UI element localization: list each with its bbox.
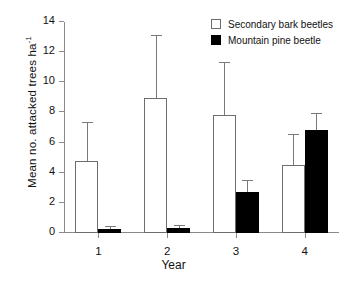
error-bar-cap: [105, 226, 116, 227]
error-bar-stem: [110, 227, 111, 229]
error-bar-cap: [151, 35, 162, 36]
bar: [167, 228, 190, 233]
error-bar-cap: [82, 122, 93, 123]
x-tick-4: [305, 233, 306, 238]
y-tick-label-8: 8: [49, 104, 55, 116]
x-axis-label: Year: [0, 258, 347, 272]
x-tick-label-4: 4: [290, 245, 320, 257]
bar: [98, 229, 121, 233]
x-tick-label-3: 3: [221, 245, 251, 257]
bar: [282, 165, 305, 233]
error-bar-stem: [179, 226, 180, 228]
bar: [213, 115, 236, 233]
x-tick-label-1: 1: [83, 245, 113, 257]
y-tick-label-12: 12: [43, 44, 55, 56]
y-tick-14: 14: [59, 21, 64, 22]
error-bar-cap: [288, 134, 299, 135]
plot-area: 02468101214 1234: [64, 22, 339, 233]
error-bar-stem: [87, 123, 88, 161]
y-tick-label-6: 6: [49, 135, 55, 147]
error-bar-stem: [156, 36, 157, 99]
error-bar-stem: [247, 181, 248, 192]
y-axis-label-exponent: -1: [24, 36, 33, 43]
y-tick-label-4: 4: [49, 165, 55, 177]
y-tick-label-0: 0: [49, 225, 55, 237]
x-tick-1: [98, 233, 99, 238]
bar: [236, 192, 259, 233]
y-axis-line: [64, 22, 65, 233]
y-axis-label-text: Mean no. attacked trees ha: [26, 43, 38, 188]
bar: [75, 161, 98, 233]
error-bar-cap: [219, 62, 230, 63]
x-tick-3: [236, 233, 237, 238]
x-tick-label-2: 2: [152, 245, 182, 257]
y-tick-0: 0: [59, 232, 64, 233]
y-tick-10: 10: [59, 81, 64, 82]
y-axis-label: Mean no. attacked trees ha-1: [26, 2, 38, 222]
error-bar-cap: [311, 113, 322, 114]
error-bar-cap: [242, 180, 253, 181]
y-tick-2: 2: [59, 202, 64, 203]
y-tick-6: 6: [59, 142, 64, 143]
y-tick-label-10: 10: [43, 74, 55, 86]
error-bar-stem: [293, 135, 294, 165]
y-tick-label-14: 14: [43, 14, 55, 26]
bar: [144, 98, 167, 233]
x-tick-2: [167, 233, 168, 238]
error-bar-cap: [174, 225, 185, 226]
bar: [305, 130, 328, 233]
y-tick-12: 12: [59, 51, 64, 52]
y-tick-8: 8: [59, 111, 64, 112]
error-bar-stem: [316, 114, 317, 130]
error-bar-stem: [224, 63, 225, 114]
y-tick-label-2: 2: [49, 195, 55, 207]
y-tick-4: 4: [59, 172, 64, 173]
bar-chart-figure: Mean no. attacked trees ha-1 Secondary b…: [0, 0, 347, 288]
